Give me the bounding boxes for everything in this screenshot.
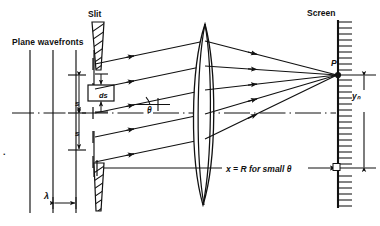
theta-label: θ	[147, 106, 152, 115]
ray-4-out	[205, 75, 337, 114]
ray-in-arrowheads	[126, 56, 134, 156]
s-lower-label: s	[75, 130, 79, 138]
distance-dimension	[97, 160, 340, 176]
rays-lens-to-p	[205, 41, 337, 139]
screen-hatching	[338, 22, 352, 206]
ray-4-in	[95, 114, 205, 137]
diagram-canvas	[0, 0, 380, 226]
slit-block-bottom	[88, 162, 110, 217]
distance-note-label: x = R for small θ	[226, 165, 291, 174]
s-dimensions	[68, 75, 86, 150]
theta-angle-marker	[134, 97, 170, 111]
ray-out-arrowheads	[248, 52, 257, 118]
lambda-dimension	[53, 197, 76, 209]
plane-wavefronts-label: Plane wavefronts	[12, 38, 84, 47]
yn-label: yₙ	[352, 92, 360, 101]
biconvex-lens	[193, 24, 213, 205]
s-upper-label: s	[75, 100, 79, 108]
screen	[335, 20, 352, 208]
ray-3-out	[205, 75, 337, 90]
point-p-label: P	[331, 59, 337, 68]
ray-2-in	[95, 66, 205, 89]
screen-label: Screen	[307, 9, 335, 18]
stray-mark: .	[3, 148, 6, 157]
theta-arc	[146, 97, 150, 104]
ray-1-in	[95, 41, 205, 64]
ray-5-in	[95, 139, 205, 162]
slit-label: Slit	[88, 10, 101, 19]
slit-block-top	[86, 21, 108, 84]
ds-label: ds	[99, 92, 108, 100]
diffraction-figure: Plane wavefronts Slit Screen P yₙ ds s s…	[0, 0, 380, 226]
distance-end-marker	[333, 164, 340, 171]
ray-5-out	[205, 75, 337, 139]
lambda-label: λ	[44, 192, 49, 201]
